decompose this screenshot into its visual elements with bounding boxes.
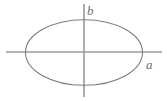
semi-minor-axis-label: b (87, 4, 94, 17)
semi-major-axis-label: a (146, 58, 153, 71)
ellipse-diagram: b a (0, 0, 167, 101)
diagram-canvas (0, 0, 167, 101)
